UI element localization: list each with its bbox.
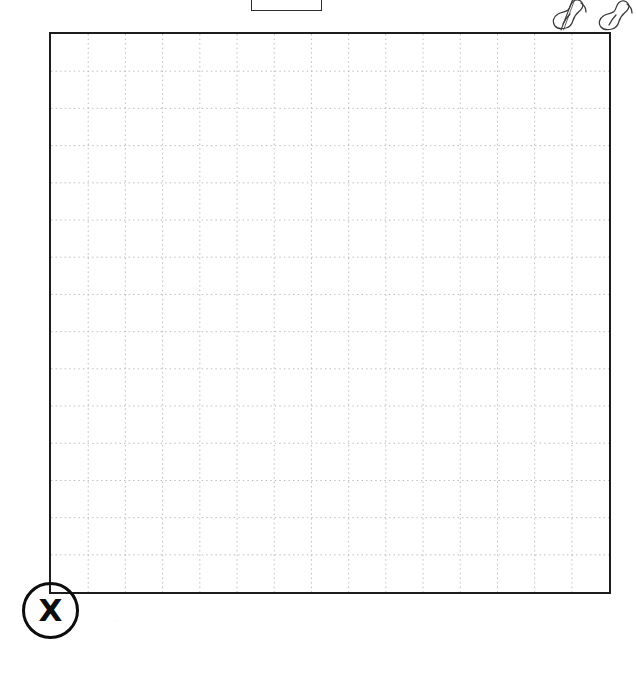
hand-drawn-doodle [543, 0, 637, 34]
cropped-header-box [251, 0, 322, 11]
grid-dotted-lines [51, 34, 609, 592]
x-marker-letter: X [22, 582, 79, 639]
page-canvas: X [0, 0, 637, 675]
dotted-grid-worksheet[interactable] [49, 32, 611, 594]
x-corner-marker[interactable]: X [22, 582, 79, 639]
